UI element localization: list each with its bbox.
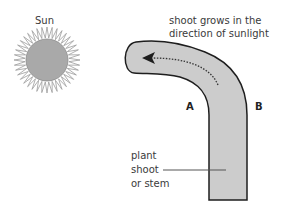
growth-label-line1: shoot grows in the [169, 15, 262, 27]
sun-label: Sun [35, 15, 54, 27]
plant-shoot [125, 41, 247, 200]
sun-icon [14, 27, 80, 93]
stem-label-line1: plant [131, 150, 157, 162]
stem-label-line2: shoot [131, 164, 159, 176]
growth-label-line2: direction of sunlight [169, 28, 269, 40]
side-a-label: A [186, 101, 194, 113]
side-b-label: B [255, 101, 263, 113]
stem-label-line3: or stem [131, 178, 169, 190]
